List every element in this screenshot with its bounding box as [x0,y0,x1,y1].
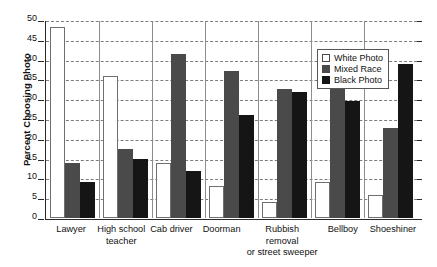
y-tick-label: 35 [27,73,37,82]
legend: White Photo Mixed Race Black Photo [317,49,389,89]
y-tick-mark [38,140,44,141]
bar [262,202,277,218]
y-tick-mark [38,120,44,121]
y-tick-label: 10 [27,172,37,181]
x-axis-label-line: Shoeshiner [368,224,418,236]
bar [277,89,292,218]
x-axis-label: Doorman [197,222,247,267]
bar [345,101,360,218]
y-tick-mark [38,80,44,81]
x-axis-label-line: Lawyer [46,224,96,236]
bar-chart: Percent Choosing Photo 05101520253035404… [0,0,437,267]
x-axis-label-line: teacher [96,236,146,248]
y-tick-label: 45 [27,34,37,43]
legend-swatch-icon-white [322,54,330,62]
bar-group [46,21,99,218]
x-axis-label-line: or street sweeper [247,247,318,259]
right-tick-mark [417,120,422,121]
right-tick-mark [417,140,422,141]
bar [315,182,330,218]
x-axis-label: Shoeshiner [368,222,418,267]
bar-group [152,21,205,218]
legend-label: White Photo [334,53,383,63]
y-tick-mark [38,199,44,200]
right-tick-mark [417,179,422,180]
legend-label: Mixed Race [334,64,382,74]
y-tick-mark [38,219,44,220]
legend-swatch-icon-mixed [322,65,330,73]
bar [186,171,201,218]
bar-group [258,21,311,218]
bar [156,163,171,218]
y-tick-label: 20 [27,133,37,142]
bar [398,64,413,218]
bar [239,115,254,218]
y-tick-label: 30 [27,93,37,102]
x-axis-label-line: Doorman [197,224,247,236]
x-axis-label-line: High school [96,224,146,236]
right-tick-mark [417,160,422,161]
x-axis-label-line: Rubbish [247,224,318,236]
legend-label: Black Photo [334,75,382,85]
bar [383,128,398,218]
x-axis-labels: LawyerHigh schoolteacherCab driverDoorma… [46,222,418,267]
bar [118,149,133,218]
bar [224,71,239,218]
legend-item-white-photo: White Photo [322,53,383,63]
bar [80,182,95,218]
bar [50,27,65,218]
y-tick-label: 40 [27,54,37,63]
x-axis-label: Bellboy [318,222,368,267]
x-axis-label: Lawyer [46,222,96,267]
bar [368,195,383,218]
right-tick-mark [417,21,422,22]
y-tick-label: 25 [27,113,37,122]
bar [133,159,148,218]
right-tick-mark [417,61,422,62]
y-tick-mark [38,160,44,161]
legend-item-black-photo: Black Photo [322,75,383,85]
legend-swatch-icon-black [322,76,330,84]
right-tick-mark [417,80,422,81]
x-axis-label: Cab driver [146,222,196,267]
y-tick-mark [38,179,44,180]
bar [209,186,224,218]
y-tick-mark [38,21,44,22]
y-tick-mark [38,41,44,42]
bar [103,76,118,218]
y-tick-label: 0 [32,212,37,221]
x-axis-label-line: Bellboy [318,224,368,236]
bar [330,88,345,218]
x-axis-label-line: Cab driver [146,224,196,236]
right-tick-mark [417,199,422,200]
bar-group [99,21,152,218]
right-tick-mark [417,219,422,220]
x-axis-label-line: removal [247,236,318,248]
x-axis-line [45,219,417,220]
bar [65,163,80,218]
bar [292,92,307,218]
right-tick-mark [417,41,422,42]
y-tick-mark [38,61,44,62]
legend-item-mixed-race: Mixed Race [322,64,383,74]
plot-area: 05101520253035404550 White Photo Mixed R… [45,21,417,219]
y-tick-label: 5 [32,192,37,201]
x-axis-label: High schoolteacher [96,222,146,267]
x-axis-label: Rubbishremovalor street sweeper [247,222,318,267]
bar [171,54,186,218]
bar-group [205,21,258,218]
right-tick-mark [417,100,422,101]
y-tick-label: 50 [27,14,37,23]
y-tick-label: 15 [27,153,37,162]
y-tick-mark [38,100,44,101]
